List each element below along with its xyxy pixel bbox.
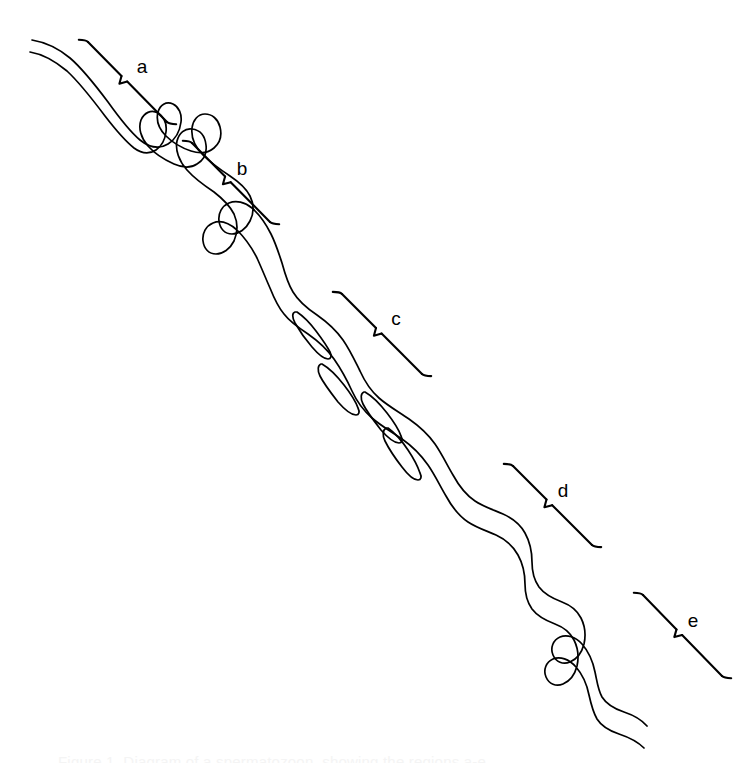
label-letter-e: e xyxy=(688,610,699,631)
figure-root: abcde Figure 1. Diagram of a spermatozoo… xyxy=(0,0,750,763)
label-letter-b: b xyxy=(237,158,248,179)
diagram-background xyxy=(0,0,750,763)
label-letter-a: a xyxy=(137,56,148,77)
label-letter-d: d xyxy=(558,480,569,501)
spermatozoon-diagram: abcde xyxy=(0,0,750,763)
figure-caption: Figure 1. Diagram of a spermatozoon, sho… xyxy=(0,751,750,763)
label-letter-c: c xyxy=(391,308,401,329)
